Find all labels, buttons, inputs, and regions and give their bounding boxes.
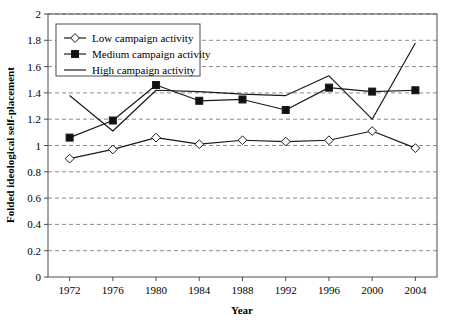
y-tick-label: 0.8 (27, 166, 41, 178)
legend-square-marker-icon (72, 51, 79, 58)
x-tick-label: 1996 (318, 284, 341, 296)
x-tick-label: 1992 (275, 284, 297, 296)
y-tick-label: 1 (36, 140, 42, 152)
x-tick-label: 1972 (59, 284, 81, 296)
x-tick-label: 1980 (145, 284, 168, 296)
x-tick-label: 1976 (102, 284, 125, 296)
y-axis-tick-labels: 00.20.40.60.811.21.41.61.82 (27, 8, 41, 283)
legend-item-label: Low campaign activity (92, 32, 194, 44)
data-point-marker (412, 87, 419, 94)
y-tick-label: 0.2 (27, 245, 41, 257)
data-point-marker (282, 106, 289, 113)
chart-container: 00.20.40.60.811.21.41.61.82 197219761980… (0, 0, 451, 327)
legend: Low campaign activityMedium campaign act… (56, 24, 211, 76)
data-point-marker (153, 82, 160, 89)
y-tick-label: 1.2 (27, 113, 41, 125)
y-tick-label: 0.4 (27, 218, 41, 230)
line-chart: 00.20.40.60.811.21.41.61.82 197219761980… (0, 0, 451, 327)
x-axis-tick-labels: 197219761980198419881992199620002004 (59, 284, 427, 296)
y-tick-label: 0 (36, 271, 42, 283)
y-axis-title: Folded ideological self-placement (4, 67, 16, 223)
data-point-marker (196, 97, 203, 104)
y-tick-label: 1.4 (27, 87, 41, 99)
x-axis-ticks (70, 277, 416, 281)
y-tick-label: 2 (36, 8, 42, 20)
x-tick-label: 2000 (361, 284, 384, 296)
x-tick-label: 1988 (232, 284, 255, 296)
legend-item-label: High campaign activity (92, 64, 196, 76)
legend-item-label: Medium campaign activity (92, 48, 211, 60)
data-point-marker (369, 88, 376, 95)
x-tick-label: 2004 (404, 284, 427, 296)
x-tick-label: 1984 (188, 284, 211, 296)
data-point-marker (66, 134, 73, 141)
data-point-marker (109, 117, 116, 124)
y-tick-label: 1.8 (27, 34, 41, 46)
data-point-marker (239, 96, 246, 103)
x-axis-title: Year (231, 304, 253, 316)
data-point-marker (325, 84, 332, 91)
y-tick-label: 1.6 (27, 61, 41, 73)
y-axis-ticks (44, 14, 48, 277)
y-tick-label: 0.6 (27, 192, 41, 204)
